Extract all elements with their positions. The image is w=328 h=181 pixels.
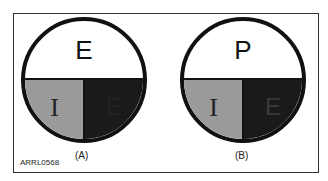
top-label-b: P	[184, 35, 302, 66]
right-label-a: E	[84, 93, 144, 121]
left-label-a: I	[25, 93, 84, 123]
top-label-a: E	[25, 35, 143, 66]
caption-b: (B)	[235, 150, 248, 161]
figure-code: ARRL0568	[20, 158, 59, 167]
circle-b: P I E	[180, 17, 306, 143]
right-label-b: E	[243, 93, 303, 121]
left-label-b: I	[184, 93, 243, 123]
caption-a: (A)	[75, 150, 88, 161]
circle-a: E I E	[21, 17, 147, 143]
